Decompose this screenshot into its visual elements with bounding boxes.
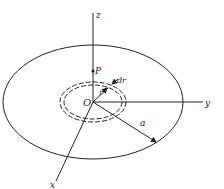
y-axis-label: y (204, 98, 211, 108)
disk-diagram: z y x O P r dr a (0, 0, 224, 189)
diagram-svg: z y x O P r dr a (0, 0, 224, 189)
x-axis (56, 102, 93, 181)
x-axis-label: x (50, 180, 55, 189)
z-axis-label: z (95, 10, 101, 20)
origin-label: O (83, 97, 91, 108)
disk-radius-label: a (140, 118, 145, 128)
point-p-label: P (94, 66, 102, 76)
ring-width-label: dr (117, 76, 127, 85)
radius-a-arrow (93, 102, 156, 142)
